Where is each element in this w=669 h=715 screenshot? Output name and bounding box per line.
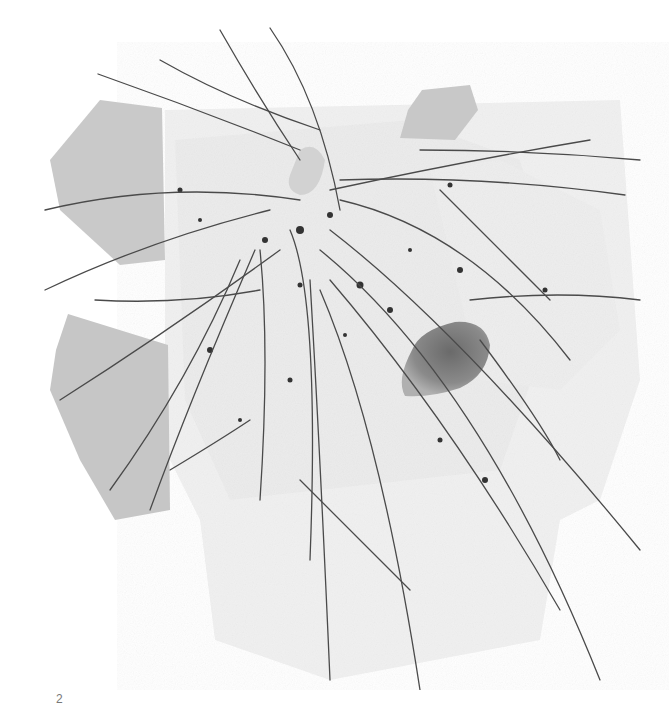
page-number: 2 <box>56 692 63 706</box>
artwork-image <box>0 0 669 690</box>
paper-ground <box>165 100 640 680</box>
